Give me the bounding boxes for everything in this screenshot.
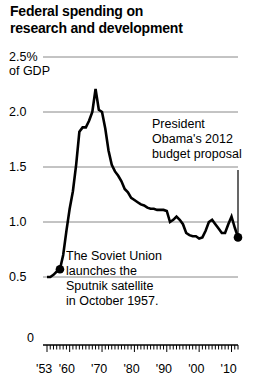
annotation-sputnik-line1: The Soviet Union [66, 249, 162, 264]
y-axis-tick-2.0: 2.0 [9, 105, 26, 119]
x-axis-tick-1960: '60 [59, 362, 75, 376]
chart-container: Federal spending on research and develop… [0, 0, 264, 389]
y-axis-tick-0.5: 0.5 [9, 270, 26, 284]
x-axis-tick-1980: '80 [123, 362, 139, 376]
annotation-sputnik-line3: Sputnik satellite [66, 279, 162, 294]
y-axis-tick-1.5: 1.5 [9, 160, 26, 174]
y-axis-unit-label: 2.5% of GDP [9, 50, 50, 78]
annotation-sputnik-line2: launches the [66, 264, 162, 279]
x-axis-tick-1990: '90 [156, 362, 172, 376]
annotation-obama: President Obama's 2012 budget proposal [152, 117, 242, 162]
annotation-obama-line3: budget proposal [152, 147, 242, 162]
annotation-obama-line1: President [152, 117, 242, 132]
data-marker-sputnik [56, 265, 65, 274]
y-axis-tick-1.0: 1.0 [9, 215, 26, 229]
data-marker-obama-proposal [234, 233, 243, 242]
y-axis-top-value: 2.5% [9, 50, 38, 64]
x-axis-tick-1953: '53 [36, 362, 52, 376]
x-axis-tick-1970: '70 [91, 362, 107, 376]
x-axis-tick-2010: '10 [221, 362, 237, 376]
y-axis-unit-sub: of GDP [9, 64, 50, 78]
y-axis-tick-0: 0 [27, 331, 34, 345]
annotation-sputnik-line4: in October 1957. [66, 294, 162, 309]
x-axis-tick-2000: '00 [188, 362, 204, 376]
annotation-sputnik: The Soviet Union launches the Sputnik sa… [66, 249, 162, 309]
annotation-obama-line2: Obama's 2012 [152, 132, 242, 147]
